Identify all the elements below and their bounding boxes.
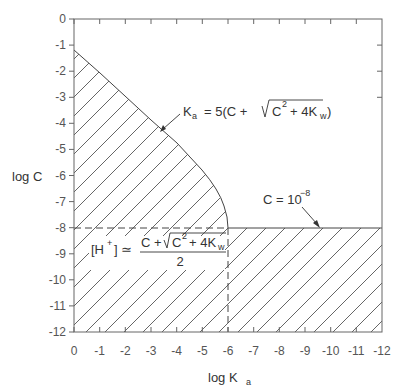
svg-text:-2: -2 (55, 64, 66, 78)
svg-text:-4: -4 (171, 344, 182, 358)
svg-text:-11: -11 (50, 299, 67, 313)
svg-text:2: 2 (176, 254, 183, 269)
x-tick-labels: 0 -1 -2 -3 -4 -5 -6 -7 -8 -9 -10 -11 -12 (71, 344, 391, 358)
chart: 0 -1 -2 -3 -4 -5 -6 -7 -8 -9 -10 -11 -12… (0, 0, 409, 391)
svg-text:-9: -9 (300, 344, 311, 358)
svg-text:+: + (107, 238, 112, 248)
svg-text:): ) (327, 104, 331, 119)
svg-text:C: C (272, 104, 281, 119)
svg-text:−8: −8 (300, 188, 310, 198)
svg-text:-6: -6 (223, 344, 234, 358)
svg-text:K: K (183, 104, 192, 119)
svg-text:-1: -1 (55, 38, 66, 52)
svg-text:-10: -10 (322, 344, 340, 358)
svg-text:-5: -5 (55, 142, 66, 156)
svg-text:2: 2 (182, 231, 187, 241)
svg-text:a: a (246, 377, 251, 387)
annotation-c-threshold: C = 10 −8 (263, 188, 320, 228)
svg-text:-3: -3 (55, 90, 66, 104)
y-tick-labels: 0 -1 -2 -3 -4 -5 -6 -7 -8 -9 -10 -11 -12 (49, 12, 67, 339)
hatched-region-upper-left (74, 19, 234, 234)
svg-text:-5: -5 (197, 344, 208, 358)
svg-text:-4: -4 (55, 116, 66, 130)
svg-text:-3: -3 (146, 344, 157, 358)
svg-text:w: w (217, 242, 225, 252)
svg-text:+ 4K: + 4K (189, 235, 216, 250)
svg-text:a: a (192, 111, 197, 121)
svg-text:= 5(C +: = 5(C + (204, 104, 247, 119)
annotation-ka-curve: K a = 5(C + C 2 + 4K w ) (160, 99, 331, 132)
svg-text:-6: -6 (55, 169, 66, 183)
x-axis-label: log K a (208, 370, 251, 387)
svg-text:log K: log K (208, 370, 238, 385)
svg-text:C = 10: C = 10 (263, 192, 302, 207)
svg-text:-9: -9 (55, 247, 66, 261)
svg-text:w: w (319, 111, 327, 121)
svg-text:] ≃: ] ≃ (114, 242, 132, 257)
y-axis-label: log C (12, 169, 42, 184)
annotation-h-plus: [H + ] ≃ C + C 2 + 4K w 2 (89, 231, 226, 270)
svg-text:-1: -1 (94, 344, 105, 358)
svg-text:-11: -11 (348, 344, 365, 358)
svg-text:C: C (172, 235, 181, 250)
svg-text:-12: -12 (373, 344, 391, 358)
svg-text:-2: -2 (120, 344, 131, 358)
svg-text:C +: C + (141, 235, 162, 250)
svg-text:2: 2 (282, 99, 287, 109)
svg-text:-7: -7 (248, 344, 259, 358)
svg-text:[H: [H (91, 242, 104, 257)
svg-text:0: 0 (59, 12, 66, 26)
svg-text:-10: -10 (49, 273, 67, 287)
svg-text:-8: -8 (274, 344, 285, 358)
svg-text:-7: -7 (55, 195, 66, 209)
svg-text:-8: -8 (55, 221, 66, 235)
svg-text:0: 0 (71, 344, 78, 358)
svg-text:-12: -12 (49, 325, 67, 339)
svg-text:+ 4K: + 4K (290, 104, 317, 119)
